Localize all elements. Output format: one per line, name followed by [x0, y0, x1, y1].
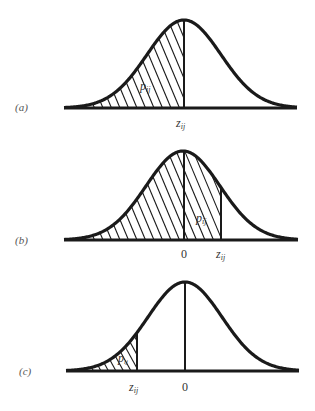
z-label-c: zij [128, 380, 139, 395]
z-label-b: zij [215, 247, 226, 262]
zero-label-b: 0 [181, 247, 187, 261]
hatch-line [114, 94, 120, 109]
area-label-a: pij [139, 79, 151, 94]
normal-curve-b [64, 151, 298, 240]
normal-curve-figure: (a) pij zij (b) pij 0 zij (c) pij zij 0 [0, 0, 315, 411]
panel-label-a: (a) [15, 101, 28, 114]
hatch-line [177, 22, 184, 38]
normal-curve-a [64, 20, 297, 108]
hatch-line [131, 207, 145, 241]
normal-curve-c [66, 282, 299, 371]
hatch-line [164, 163, 197, 241]
area-label-c: pij [117, 351, 128, 366]
panel-label-b: (b) [15, 234, 28, 247]
hatch-line [153, 177, 180, 241]
hatch-line [120, 220, 129, 241]
hatch-line [126, 214, 137, 241]
hatch-line [114, 225, 120, 240]
panel-label-c: (c) [19, 365, 32, 378]
hatch-line [153, 46, 179, 108]
area-label-b: pij [195, 211, 207, 226]
hatch-line [107, 230, 111, 241]
hatch-line [137, 200, 154, 241]
panel-a: (a) pij zij [15, 20, 297, 131]
hatched-area-a [85, 22, 184, 108]
hatch-line [126, 83, 137, 109]
hatch-line [130, 342, 137, 354]
hatch-line [170, 157, 205, 241]
hatch-line [171, 26, 184, 58]
hatch-line [120, 89, 128, 109]
zero-label-c: 0 [182, 380, 188, 394]
hatched-area-b [85, 151, 221, 240]
z-label-a: zij [175, 116, 186, 131]
hatch-line [164, 32, 184, 78]
panel-c: (c) pij zij 0 [19, 282, 299, 395]
hatch-line [110, 360, 116, 371]
panel-b: (b) pij 0 zij [15, 151, 298, 262]
hatch-line [142, 192, 162, 240]
